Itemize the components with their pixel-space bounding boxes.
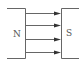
arrowhead-icon [54, 12, 61, 16]
field-lines [26, 12, 62, 55]
magnetic-field-diagram: N S [0, 0, 79, 75]
arrowhead-icon [54, 38, 61, 42]
arrowhead-icon [54, 51, 61, 55]
arrowhead-icon [54, 24, 61, 28]
south-pole-label: S [66, 28, 72, 38]
north-pole-label: N [13, 29, 21, 39]
